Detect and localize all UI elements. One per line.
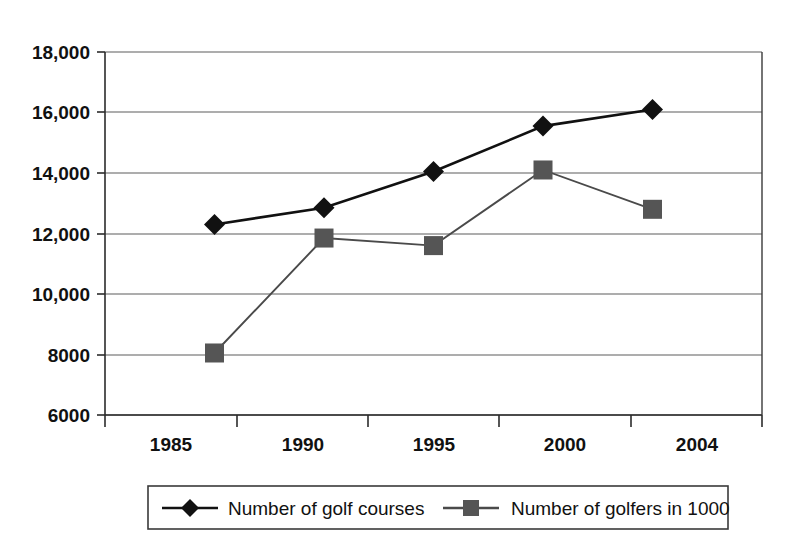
y-tick-label-8000: 8000 bbox=[48, 345, 90, 366]
y-tick-label-14000: 14,000 bbox=[32, 163, 90, 184]
x-tick-label-1995: 1995 bbox=[413, 434, 456, 455]
x-tick-label-1985: 1985 bbox=[150, 434, 193, 455]
chart-background bbox=[0, 0, 804, 551]
data-point-square bbox=[534, 160, 553, 179]
y-tick-label-10000: 10,000 bbox=[32, 284, 90, 305]
data-point-square bbox=[205, 343, 224, 362]
x-tick-label-2004: 2004 bbox=[676, 434, 719, 455]
legend-label-golfers: Number of golfers in 1000 bbox=[511, 498, 730, 519]
x-tick-label-1990: 1990 bbox=[282, 434, 324, 455]
chart-legend[interactable]: Number of golf courses Number of golfers… bbox=[148, 486, 730, 529]
line-chart: 18,000 16,000 14,000 12,000 10,000 8000 … bbox=[0, 0, 804, 551]
y-tick-label-12000: 12,000 bbox=[32, 224, 90, 245]
y-tick-label-18000: 18,000 bbox=[32, 42, 90, 63]
y-tick-label-6000: 6000 bbox=[48, 405, 90, 426]
chart-canvas: 18,000 16,000 14,000 12,000 10,000 8000 … bbox=[0, 0, 804, 551]
data-point-square bbox=[315, 229, 334, 248]
x-tick-label-2000: 2000 bbox=[544, 434, 586, 455]
legend-label-golf-courses: Number of golf courses bbox=[228, 498, 424, 519]
data-point-square bbox=[424, 236, 443, 255]
data-point-square bbox=[643, 200, 662, 219]
y-tick-label-16000: 16,000 bbox=[32, 102, 90, 123]
square-marker-icon bbox=[463, 500, 479, 516]
